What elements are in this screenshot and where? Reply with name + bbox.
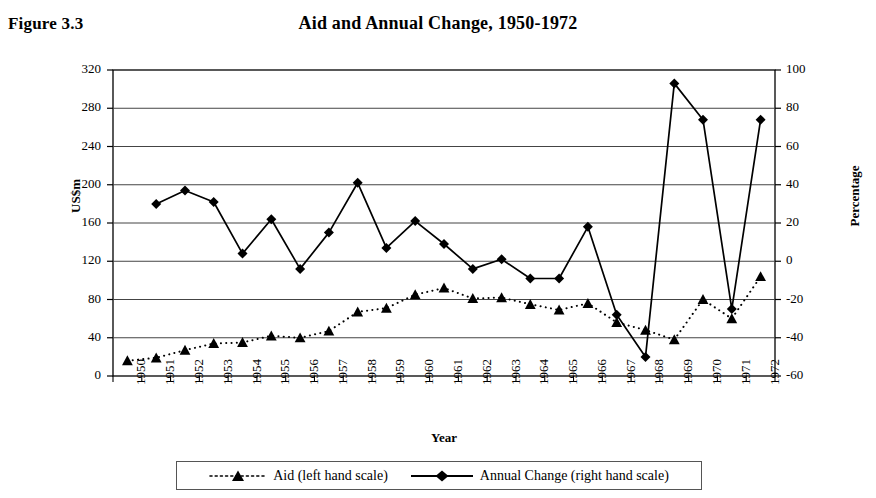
x-axis-tick-label: 1962 — [479, 359, 495, 385]
triangle-marker — [180, 345, 191, 355]
x-axis-tick-label: 1972 — [767, 359, 783, 385]
series-line — [127, 277, 760, 361]
x-axis-tick-label: 1950 — [133, 359, 149, 385]
y2-axis-tick-label: 60 — [786, 138, 830, 154]
plot-frame — [113, 70, 775, 376]
triangle-marker — [295, 332, 306, 342]
y-axis-tick-label: 80 — [57, 291, 101, 307]
x-axis-tick-label: 1959 — [392, 359, 408, 385]
chart-legend: Aid (left hand scale) Annual Change (rig… — [176, 461, 702, 490]
diamond-marker — [151, 199, 161, 209]
triangle-marker — [324, 326, 335, 336]
y2-axis-tick-label: 20 — [786, 214, 830, 230]
diamond-marker — [727, 304, 737, 314]
triangle-marker — [266, 330, 277, 340]
x-axis-tick-label: 1965 — [565, 359, 581, 385]
triangle-marker — [611, 317, 622, 327]
triangle-marker — [352, 307, 363, 317]
triangle-marker — [525, 299, 536, 309]
triangle-marker — [208, 338, 219, 348]
y2-axis-tick-label: -60 — [786, 367, 830, 383]
y-axis-tick-label: 40 — [57, 329, 101, 345]
triangle-marker — [467, 293, 478, 303]
legend-swatch-annual-change-solid-diamond — [410, 469, 474, 483]
x-axis-tick-label: 1971 — [738, 359, 754, 385]
triangle-marker — [496, 292, 507, 302]
left-axis-title: US$m — [68, 136, 84, 256]
triangle-marker — [237, 337, 248, 347]
triangle-marker — [554, 305, 565, 315]
x-axis-tick-label: 1957 — [335, 359, 351, 385]
x-axis-title: Year — [113, 430, 775, 446]
x-axis-tick-label: 1955 — [277, 359, 293, 385]
x-axis-tick-label: 1951 — [162, 359, 178, 385]
diamond-marker — [180, 186, 190, 196]
y2-axis-tick-label: -40 — [786, 329, 830, 345]
x-axis-tick-label: 1958 — [364, 359, 380, 385]
diamond-marker — [669, 78, 679, 88]
triangle-marker — [755, 271, 766, 281]
x-axis-tick-label: 1952 — [191, 359, 207, 385]
diamond-marker — [612, 310, 622, 320]
triangle-marker — [439, 283, 450, 293]
diamond-marker — [381, 243, 391, 253]
series-1-triangle — [122, 271, 766, 365]
diamond-marker — [439, 239, 449, 249]
x-axis-tick-label: 1966 — [594, 359, 610, 385]
y2-axis-tick-label: 100 — [786, 61, 830, 77]
y-axis-tick-label: 240 — [57, 138, 101, 154]
diamond-marker — [583, 222, 593, 232]
y-axis-tick-label: 280 — [57, 99, 101, 115]
triangle-marker — [410, 289, 421, 299]
x-axis-tick-label: 1967 — [623, 359, 639, 385]
diamond-marker — [554, 274, 564, 284]
x-axis-tick-label: 1961 — [450, 359, 466, 385]
triangle-marker — [122, 355, 133, 365]
y2-axis-tick-label: 80 — [786, 99, 830, 115]
diamond-marker — [698, 115, 708, 125]
chart-title: Aid and Annual Change, 1950-1972 — [0, 13, 876, 34]
diamond-marker — [209, 197, 219, 207]
triangle-marker — [669, 334, 680, 344]
diamond-marker — [756, 115, 766, 125]
triangle-marker — [583, 298, 594, 308]
right-axis-title: Percentage — [847, 131, 863, 261]
y-axis-tick-label: 160 — [57, 214, 101, 230]
y2-axis-tick-label: 0 — [786, 252, 830, 268]
plot-canvas — [0, 0, 876, 498]
x-axis-tick-label: 1969 — [680, 359, 696, 385]
y-axis-tick-label: 120 — [57, 252, 101, 268]
triangle-marker — [381, 303, 392, 313]
diamond-marker — [641, 352, 651, 362]
y-axis-tick-label: 0 — [57, 367, 101, 383]
x-axis-tick-label: 1970 — [709, 359, 725, 385]
x-axis-tick-label: 1956 — [306, 359, 322, 385]
legend-entry-aid: Aid (left hand scale) — [209, 468, 388, 484]
x-axis-tick-label: 1964 — [536, 359, 552, 385]
diamond-marker — [353, 178, 363, 188]
triangle-marker — [726, 313, 737, 323]
y-axis-tick-label: 320 — [57, 61, 101, 77]
triangle-marker — [640, 325, 651, 335]
diamond-marker — [525, 274, 535, 284]
legend-label-annual-change: Annual Change (right hand scale) — [480, 468, 669, 484]
x-axis-tick-label: 1963 — [508, 359, 524, 385]
diamond-marker — [238, 249, 248, 259]
triangle-marker — [151, 352, 162, 362]
legend-swatch-aid-dotted-triangle — [209, 469, 267, 483]
legend-entry-annual-change: Annual Change (right hand scale) — [410, 468, 669, 484]
diamond-marker — [497, 254, 507, 264]
diamond-marker — [410, 216, 420, 226]
series-line — [156, 83, 760, 357]
y2-axis-tick-label: -20 — [786, 291, 830, 307]
x-axis-tick-label: 1954 — [249, 359, 265, 385]
triangle-marker — [698, 294, 709, 304]
diamond-marker — [295, 264, 305, 274]
x-axis-tick-label: 1960 — [421, 359, 437, 385]
y2-axis-tick-label: 40 — [786, 176, 830, 192]
x-axis-tick-label: 1968 — [651, 359, 667, 385]
diamond-marker — [266, 214, 276, 224]
series-2-diamond — [151, 78, 765, 362]
diamond-marker — [468, 264, 478, 274]
figure-root: Figure 3.3 Aid and Annual Change, 1950-1… — [0, 0, 876, 498]
